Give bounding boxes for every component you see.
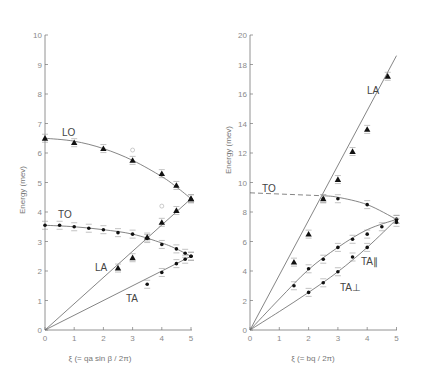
dot-marker-TA bbox=[321, 257, 325, 261]
y-tick-label: 10 bbox=[238, 179, 247, 188]
label-TA-perp: TA⊥ bbox=[340, 282, 361, 293]
dot-marker-TO bbox=[336, 197, 340, 201]
label-TA-parallel: TA∥ bbox=[361, 256, 378, 268]
y-tick-label: 9 bbox=[38, 61, 43, 70]
y-tick-label: 14 bbox=[238, 120, 247, 129]
open-circle-marker bbox=[131, 148, 135, 152]
label-LO: LO bbox=[62, 127, 76, 138]
dot-marker-TO bbox=[72, 225, 76, 229]
dot-marker-TO bbox=[365, 203, 369, 207]
left-x-ticks: 012345 bbox=[43, 327, 194, 343]
dot-marker-TO bbox=[321, 197, 325, 201]
x-tick-label: 5 bbox=[394, 334, 399, 343]
x-tick-label: 4 bbox=[365, 334, 370, 343]
triangle-marker-LA bbox=[349, 148, 355, 154]
dot-marker-TA bbox=[365, 232, 369, 236]
curve-TO_dashed bbox=[250, 193, 323, 196]
dot-marker-TA bbox=[145, 282, 149, 286]
triangle-marker-LO bbox=[129, 157, 135, 163]
y-tick-label: 4 bbox=[38, 208, 43, 217]
triangle-marker-LA bbox=[291, 259, 297, 265]
label-LA-right: LA bbox=[367, 85, 380, 96]
y-tick-label: 5 bbox=[38, 179, 43, 188]
x-tick-label: 1 bbox=[277, 334, 282, 343]
y-tick-label: 20 bbox=[238, 31, 247, 40]
label-TA: TA bbox=[126, 293, 138, 304]
triangle-marker-LA bbox=[335, 176, 341, 182]
dot-marker-TO bbox=[43, 223, 47, 227]
y-tick-label: 8 bbox=[38, 90, 43, 99]
triangle-marker-LO bbox=[42, 135, 48, 141]
dot-marker-TO bbox=[131, 232, 135, 236]
right-y-axis-label: Energy (mev) bbox=[224, 126, 233, 174]
curve-TA bbox=[250, 219, 397, 330]
y-tick-label: 18 bbox=[238, 61, 247, 70]
dot-marker-TA bbox=[183, 257, 187, 261]
dot-marker-TO bbox=[160, 243, 164, 247]
curve-TO bbox=[323, 196, 396, 220]
triangle-marker-LA bbox=[305, 231, 311, 237]
dot-marker-TA bbox=[160, 271, 164, 275]
dot-marker-TA bbox=[336, 270, 340, 274]
dot-marker-TA bbox=[336, 246, 340, 250]
y-tick-label: 10 bbox=[33, 31, 42, 40]
left-y-axis-label: Energy (mev) bbox=[18, 166, 27, 214]
y-tick-label: 4 bbox=[243, 267, 248, 276]
x-tick-label: 1 bbox=[72, 334, 77, 343]
right-y-ticks: 02468101214161820 bbox=[238, 31, 253, 335]
left-chart: 012345678910 012345 LO TO LA TA Energy (… bbox=[18, 31, 194, 363]
right-x-axis-label: ξ (= bq / 2π) bbox=[291, 354, 335, 363]
right-chart: 02468101214161820 012345 LA TO TA∥ TA⊥ E… bbox=[224, 31, 400, 363]
label-TO-right: TO bbox=[262, 183, 276, 194]
dot-marker-TA bbox=[351, 237, 355, 241]
y-tick-label: 6 bbox=[243, 238, 248, 247]
y-tick-label: 2 bbox=[38, 267, 43, 276]
triangle-marker-LA bbox=[129, 255, 135, 261]
triangle-marker-LO bbox=[71, 139, 77, 145]
x-tick-label: 2 bbox=[306, 334, 311, 343]
left-y-ticks: 012345678910 bbox=[33, 31, 48, 335]
open-circle-marker bbox=[160, 204, 164, 208]
dot-marker-TA bbox=[395, 221, 399, 225]
curve-TO bbox=[45, 225, 191, 256]
triangle-marker-LO bbox=[159, 170, 165, 176]
dot-marker-TO bbox=[116, 231, 120, 235]
dot-marker-TO bbox=[58, 223, 62, 227]
dot-marker-TA bbox=[307, 267, 311, 271]
right-x-ticks: 012345 bbox=[248, 327, 400, 343]
right-data-points bbox=[291, 72, 400, 296]
dot-marker-TO bbox=[102, 228, 106, 232]
phonon-dispersion-figure: 012345678910 012345 LO TO LA TA Energy (… bbox=[0, 0, 427, 389]
dot-marker-TO bbox=[183, 252, 187, 256]
x-tick-label: 3 bbox=[130, 334, 135, 343]
dot-marker-TA bbox=[189, 254, 193, 258]
y-tick-label: 1 bbox=[38, 297, 43, 306]
dot-marker-TA bbox=[321, 281, 325, 285]
dot-marker-TA bbox=[380, 225, 384, 229]
x-tick-label: 5 bbox=[189, 334, 194, 343]
dot-marker-TA bbox=[365, 246, 369, 250]
dot-marker-TO bbox=[87, 226, 91, 230]
dot-marker-TA bbox=[307, 291, 311, 295]
triangle-marker-LA bbox=[159, 219, 165, 225]
y-tick-label: 12 bbox=[238, 149, 247, 158]
y-tick-label: 2 bbox=[243, 297, 248, 306]
y-tick-label: 3 bbox=[38, 238, 43, 247]
dot-marker-TA bbox=[175, 262, 179, 266]
curve-TA bbox=[250, 219, 397, 330]
dot-marker-TA bbox=[292, 284, 296, 288]
dot-marker-TO bbox=[175, 247, 179, 251]
curve-LO bbox=[45, 138, 191, 198]
x-tick-label: 4 bbox=[160, 334, 165, 343]
triangle-marker-LA bbox=[115, 265, 121, 271]
y-tick-label: 16 bbox=[238, 90, 247, 99]
x-tick-label: 3 bbox=[336, 334, 341, 343]
x-tick-label: 0 bbox=[248, 334, 253, 343]
triangle-marker-LA bbox=[188, 196, 194, 202]
x-tick-label: 0 bbox=[43, 334, 48, 343]
dot-marker-TA bbox=[351, 255, 355, 259]
label-TO: TO bbox=[58, 209, 72, 220]
left-x-axis-label: ξ (= qa sin β / 2π) bbox=[69, 354, 132, 363]
y-tick-label: 7 bbox=[38, 120, 43, 129]
y-tick-label: 8 bbox=[243, 208, 248, 217]
